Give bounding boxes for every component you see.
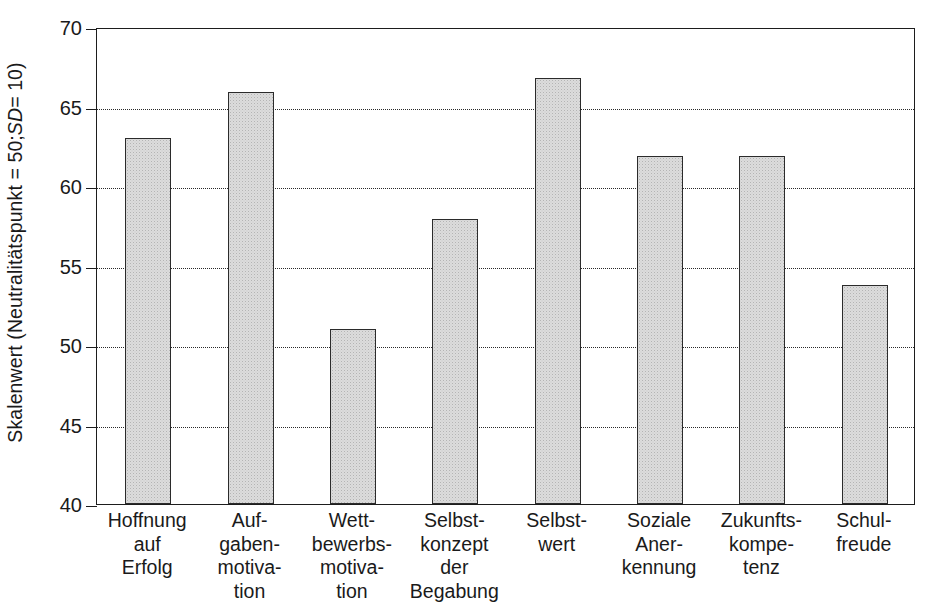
bar: [739, 156, 785, 504]
bar: [842, 285, 888, 504]
grid-line: [97, 109, 914, 110]
y-axis-tick-label: 60: [36, 177, 82, 197]
y-axis-tick-mark: [86, 29, 97, 30]
y-axis-tick-mark: [86, 347, 97, 348]
y-axis-tick-mark: [86, 427, 97, 428]
y-axis-title: Skalenwert (Neutralitätspunkt = 50; SD =…: [0, 0, 30, 505]
x-axis-category-label: Auf- gaben- motiva- tion: [198, 509, 300, 603]
y-axis-tick-mark: [86, 188, 97, 189]
y-axis-tick-mark: [86, 268, 97, 269]
grid-line: [97, 268, 914, 269]
bar: [535, 78, 581, 504]
x-axis-category-label: Zukunfts- kompe- tenz: [710, 509, 812, 580]
grid-line: [97, 427, 914, 428]
y-axis-tick-mark: [86, 109, 97, 110]
y-axis-title-before: Skalenwert (Neutralitätspunkt = 50;: [4, 135, 27, 443]
y-axis-tick-label: 55: [36, 257, 82, 277]
bar-chart-figure: Skalenwert (Neutralitätspunkt = 50; SD =…: [0, 0, 937, 611]
bar: [637, 156, 683, 504]
x-axis-category-label: Selbst- konzept der Begabung: [403, 509, 505, 603]
y-axis-tick-label: 70: [36, 18, 82, 38]
y-axis-tick-label: 45: [36, 416, 82, 436]
y-axis-tick-label: 65: [36, 98, 82, 118]
bar: [432, 219, 478, 504]
y-axis-tick-label: 40: [36, 495, 82, 515]
grid-line: [97, 347, 914, 348]
x-axis-category-label: Wett- bewerbs- motiva- tion: [301, 509, 403, 603]
x-axis-category-label: Soziale Aner- kennung: [608, 509, 710, 580]
x-axis-category-label: Hoffnung auf Erfolg: [96, 509, 198, 580]
y-axis-tick-mark: [86, 506, 97, 507]
x-axis-category-labels: Hoffnung auf ErfolgAuf- gaben- motiva- t…: [96, 509, 915, 611]
bar: [125, 138, 171, 504]
x-axis-category-label: Selbst- wert: [506, 509, 608, 556]
bar: [330, 329, 376, 504]
y-axis-title-italic-sd: SD: [4, 108, 27, 135]
bar: [228, 92, 274, 504]
grid-line: [97, 188, 914, 189]
y-axis-tick-labels: 70656055504540: [36, 0, 82, 611]
y-axis-title-after: = 10): [4, 62, 27, 108]
plot-area: [96, 28, 915, 505]
x-axis-category-label: Schul- freude: [813, 509, 915, 556]
y-axis-tick-label: 50: [36, 336, 82, 356]
